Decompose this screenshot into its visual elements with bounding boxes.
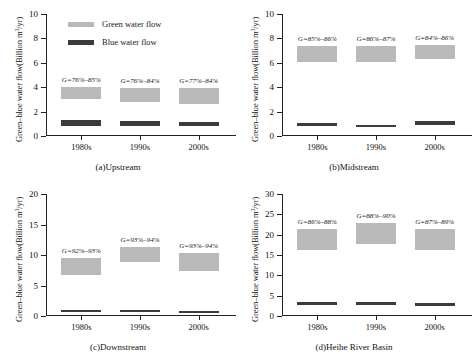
y-axis-tick-label: 6 — [34, 58, 39, 68]
y-axis-tick-label: 10 — [29, 250, 38, 260]
panel-caption: (a)Upstream — [0, 162, 236, 172]
y-axis-line — [46, 14, 47, 136]
y-axis-tick-label: 2 — [270, 107, 275, 117]
x-axis-tick — [376, 136, 377, 140]
green-water-coefficient-annotation: G=84%–86% — [415, 34, 454, 42]
y-axis-tick-label: 10 — [29, 9, 38, 19]
y-axis-tick-label: 4 — [34, 82, 39, 92]
bar-blue-water-flow — [356, 125, 396, 128]
bar-green-water-flow — [120, 247, 160, 262]
y-axis-tick-label: 15 — [265, 250, 274, 260]
panel-downstream: Green–blue water flow(Billion m3/yr) 051… — [0, 180, 236, 360]
bar-green-water-flow — [61, 87, 101, 99]
x-axis-tick — [81, 136, 82, 140]
plot-area-downstream: 051015201980sG=92%–93%1990sG=93%–94%2000… — [46, 194, 222, 316]
bar-blue-water-flow — [179, 311, 219, 313]
y-axis-tick — [41, 14, 46, 15]
x-axis-tick-label: 1990s — [130, 142, 150, 152]
y-axis-line — [46, 194, 47, 316]
y-axis-tick-label: 10 — [265, 270, 274, 280]
y-axis-tick-label: 5 — [270, 291, 275, 301]
y-axis-label: Green–blue water flow(Billion m3/yr) — [250, 184, 261, 334]
y-axis-tick — [41, 255, 46, 256]
x-axis-tick-label: 1990s — [130, 322, 150, 332]
bar-green-water-flow — [297, 46, 337, 62]
panel-midstream: Green–blue water flow(Billion m3/yr) 024… — [236, 0, 472, 180]
green-water-coefficient-annotation: G=76%–84% — [121, 77, 160, 85]
plot-area-heihe-river-basin: 0510152025301980sG=86%–88%1990sG=88%–90%… — [282, 194, 458, 316]
bar-green-water-flow — [415, 229, 455, 251]
y-axis-tick-label: 0 — [34, 131, 39, 141]
bar-blue-water-flow — [415, 121, 455, 125]
bar-blue-water-flow — [120, 121, 160, 126]
green-water-coefficient-annotation: G=86%–88% — [298, 218, 337, 226]
x-axis-tick — [376, 316, 377, 320]
bar-blue-water-flow — [61, 310, 101, 312]
y-axis-label: Green–blue water flow(Billion m3/yr) — [14, 184, 25, 334]
x-axis-tick-label: 2000s — [425, 322, 445, 332]
x-axis-tick — [435, 136, 436, 140]
x-axis-tick-label: 2000s — [189, 322, 209, 332]
x-axis-tick — [317, 136, 318, 140]
bar-green-water-flow — [356, 46, 396, 62]
legend-swatch-green-icon — [68, 22, 94, 27]
bar-blue-water-flow — [415, 303, 455, 306]
legend-label-blue: Blue water flow — [102, 37, 157, 47]
y-axis-tick-label: 20 — [265, 230, 274, 240]
x-axis-tick — [435, 316, 436, 320]
y-axis-tick-label: 25 — [265, 209, 274, 219]
legend-item-blue: Blue water flow — [68, 37, 161, 47]
green-water-coefficient-annotation: G=87%–89% — [415, 218, 454, 226]
y-axis-tick-label: 0 — [34, 311, 39, 321]
green-water-coefficient-annotation: G=77%–84% — [179, 77, 218, 85]
y-axis-tick — [277, 87, 282, 88]
y-axis-tick — [277, 296, 282, 297]
y-axis-tick-label: 15 — [29, 220, 38, 230]
y-axis-tick-label: 5 — [34, 281, 39, 291]
bar-blue-water-flow — [61, 120, 101, 125]
x-axis-tick — [317, 316, 318, 320]
x-axis-line — [282, 135, 472, 136]
y-axis-tick — [277, 112, 282, 113]
y-axis-tick-label: 6 — [270, 58, 275, 68]
y-axis-tick-label: 4 — [270, 82, 275, 92]
bar-blue-water-flow — [297, 123, 337, 126]
y-axis-tick — [41, 194, 46, 195]
bar-green-water-flow — [356, 223, 396, 243]
bar-blue-water-flow — [297, 302, 337, 305]
y-axis-tick-label: 30 — [265, 189, 274, 199]
y-axis-label: Green–blue water flow(Billion m3/yr) — [250, 4, 261, 154]
y-axis-line — [282, 194, 283, 316]
legend-swatch-blue-icon — [68, 40, 94, 45]
y-axis-tick-label: 8 — [34, 33, 39, 43]
y-axis-tick — [41, 63, 46, 64]
bar-green-water-flow — [179, 88, 219, 104]
legend-label-green: Green water flow — [102, 19, 161, 29]
x-axis-tick-label: 1980s — [307, 142, 327, 152]
y-axis-tick-label: 20 — [29, 189, 38, 199]
x-axis-line — [282, 315, 472, 316]
green-water-coefficient-annotation: G=93%–94% — [121, 236, 160, 244]
green-water-coefficient-annotation: G=93%–94% — [179, 242, 218, 250]
bar-green-water-flow — [120, 88, 160, 101]
green-water-coefficient-annotation: G=92%–93% — [62, 247, 101, 255]
x-axis-line — [46, 135, 236, 136]
panel-caption: (d)Heihe River Basin — [236, 342, 472, 352]
y-axis-tick — [41, 225, 46, 226]
y-axis-tick — [277, 235, 282, 236]
green-water-coefficient-annotation: G=76%–85% — [62, 76, 101, 84]
bar-blue-water-flow — [356, 302, 396, 305]
x-axis-tick-label: 2000s — [425, 142, 445, 152]
bar-blue-water-flow — [120, 310, 160, 312]
y-axis-tick — [277, 255, 282, 256]
green-water-coefficient-annotation: G=86%–87% — [357, 35, 396, 43]
panel-caption: (b)Midstream — [236, 162, 472, 172]
y-axis-label: Green–blue water flow(Billion m3/yr) — [14, 4, 25, 154]
x-axis-tick-label: 1990s — [366, 322, 386, 332]
bar-green-water-flow — [297, 229, 337, 250]
x-axis-tick — [140, 136, 141, 140]
y-axis-tick-label: 0 — [270, 131, 275, 141]
y-axis-tick — [277, 275, 282, 276]
legend: Green water flow Blue water flow — [68, 19, 161, 55]
y-axis-tick — [41, 316, 46, 317]
